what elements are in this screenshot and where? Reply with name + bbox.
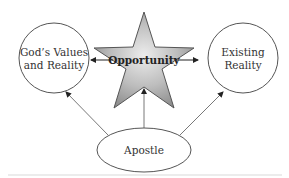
diagram-canvas: God’s Values and Reality Existing Realit… (0, 0, 289, 178)
node-gods-values-line2: and Reality (24, 59, 84, 71)
node-existing-reality: Existing Reality (208, 23, 278, 93)
arrow-apostle-to-gods-values (66, 92, 108, 135)
node-existing-line1: Existing (221, 46, 265, 58)
node-existing-line2: Reality (224, 59, 261, 71)
node-opportunity-label: Opportunity (108, 54, 180, 66)
node-apostle-label: Apostle (123, 144, 164, 156)
node-apostle: Apostle (97, 128, 191, 172)
arrow-apostle-to-existing-reality (180, 92, 223, 135)
node-gods-values-and-reality: God’s Values and Reality (19, 23, 89, 93)
node-gods-values-line1: God’s Values (20, 46, 88, 58)
